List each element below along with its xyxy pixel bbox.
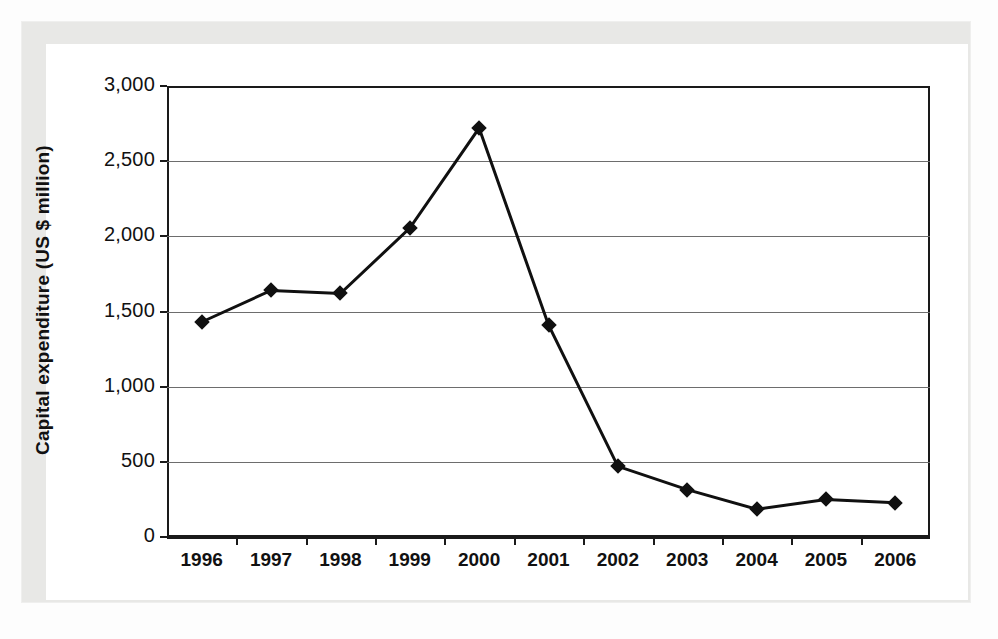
y-tick-label: 2,000 [37, 223, 155, 246]
gridline [167, 537, 930, 539]
gridline [167, 161, 930, 162]
x-tick-mark [236, 537, 238, 545]
x-tick-label: 1998 [306, 549, 375, 571]
x-tick-mark [653, 537, 655, 545]
x-tick-label: 1996 [167, 549, 236, 571]
x-tick-label: 1999 [375, 549, 444, 571]
gridline [167, 236, 930, 237]
x-tick-mark [306, 537, 308, 545]
y-tick-label: 0 [37, 524, 155, 547]
x-tick-label: 2004 [722, 549, 791, 571]
y-tick-label: 1,500 [37, 299, 155, 322]
y-tick-label: 500 [37, 449, 155, 472]
x-tick-mark [583, 537, 585, 545]
y-tick-label: 2,500 [37, 148, 155, 171]
x-tick-label: 2001 [514, 549, 583, 571]
x-tick-label: 1997 [236, 549, 305, 571]
x-tick-label: 2005 [791, 549, 860, 571]
x-tick-mark [722, 537, 724, 545]
line-chart: Capital expenditure (US $ million) 05001… [0, 0, 998, 639]
x-tick-mark [444, 537, 446, 545]
page-background: Capital expenditure (US $ million) 05001… [0, 0, 998, 639]
y-tick-mark [160, 386, 167, 388]
x-tick-label: 2003 [653, 549, 722, 571]
y-tick-label: 1,000 [37, 374, 155, 397]
x-tick-label: 2000 [444, 549, 513, 571]
y-tick-mark [160, 536, 167, 538]
x-tick-label: 2006 [861, 549, 930, 571]
gridline [167, 312, 930, 313]
gridline [167, 387, 930, 388]
x-tick-mark [375, 537, 377, 545]
gridline [167, 86, 930, 88]
x-tick-mark [791, 537, 793, 545]
y-tick-mark [160, 461, 167, 463]
y-tick-mark [160, 160, 167, 162]
x-tick-mark [861, 537, 863, 545]
x-tick-mark [514, 537, 516, 545]
x-tick-label: 2002 [583, 549, 652, 571]
y-tick-mark [160, 311, 167, 313]
y-tick-mark [160, 235, 167, 237]
y-tick-label: 3,000 [37, 73, 155, 96]
y-tick-mark [160, 85, 167, 87]
gridline [167, 462, 930, 463]
